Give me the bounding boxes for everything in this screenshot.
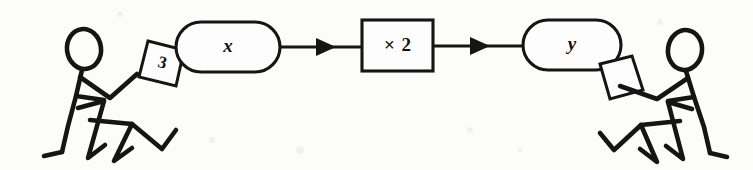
node-times2-label: × 2 [384, 34, 412, 55]
arrow-times2-to-y-head [470, 37, 490, 55]
left-figure-near-leg [78, 101, 105, 158]
arrow-x-to-times2 [280, 38, 362, 56]
right-figure-extended-shin [600, 125, 641, 150]
right-figure-near-leg [666, 102, 692, 159]
right-figure-hip [668, 97, 694, 101]
node-x-label: x [222, 35, 233, 56]
left-figure-torso [62, 70, 82, 152]
right-figure-torso [686, 71, 710, 153]
left-figure-extended-shin [132, 124, 176, 149]
left-figure-hip [76, 96, 104, 100]
right-figure-support-arm [710, 153, 727, 157]
node-times2: × 2 [362, 20, 433, 71]
node-y-label: y [566, 33, 577, 54]
node-x: x [176, 22, 280, 72]
arrow-x-to-times2-head [316, 38, 336, 56]
arrow-times2-to-y [433, 37, 523, 55]
left-figure-support-arm [44, 152, 62, 156]
function-machine-diagram: 3 x × 2 y [0, 0, 753, 170]
left-figure-extended-arm [80, 74, 137, 98]
right-figure-head [665, 28, 704, 72]
left-figure-head [64, 27, 103, 71]
